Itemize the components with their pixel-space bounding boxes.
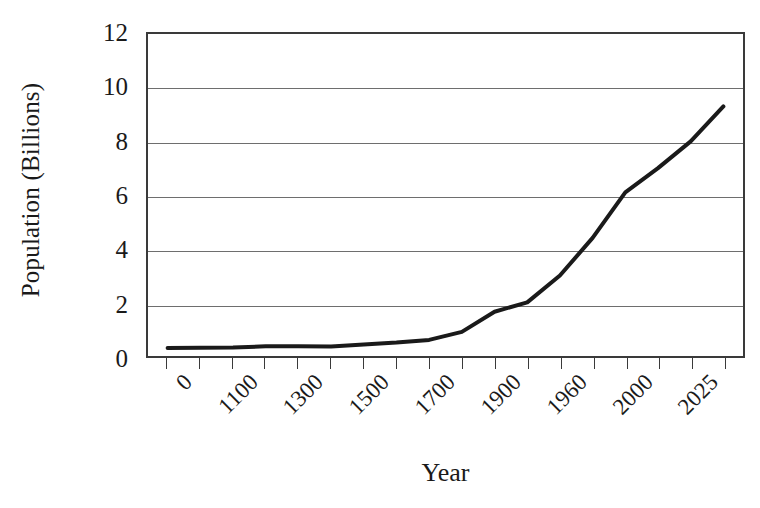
x-tick (725, 358, 726, 369)
x-tick (692, 358, 693, 369)
chart-page: Population (Billions) 024681012 01100130… (0, 0, 760, 508)
x-tick (264, 358, 265, 369)
x-tick (528, 358, 529, 369)
x-tick (199, 358, 200, 369)
x-tick (297, 358, 298, 369)
x-tick (561, 358, 562, 369)
x-tick (594, 358, 595, 369)
y-tick-label: 0 (116, 346, 129, 371)
y-axis-title: Population (Billions) (0, 0, 62, 380)
x-tick-label: 2000 (608, 370, 657, 419)
x-axis-ticks (146, 358, 745, 370)
x-tick-label: 2025 (674, 370, 723, 419)
plot-area (146, 32, 745, 358)
x-tick (495, 358, 496, 369)
y-axis-title-text: Population (Billions) (17, 83, 45, 298)
y-tick-label: 6 (116, 183, 129, 208)
x-tick (166, 358, 167, 369)
y-tick-label: 12 (103, 20, 128, 45)
y-tick-label: 2 (116, 291, 129, 316)
x-tick-label: 0 (172, 370, 196, 394)
x-tick (659, 358, 660, 369)
x-tick (627, 358, 628, 369)
y-tick-label: 4 (116, 237, 129, 262)
y-tick-label: 8 (116, 128, 129, 153)
y-axis-tick-labels: 024681012 (62, 0, 140, 380)
x-tick-label: 1100 (214, 370, 262, 418)
x-tick-label: 1300 (279, 370, 328, 419)
data-series-line (148, 34, 743, 356)
x-tick (363, 358, 364, 369)
x-tick (232, 358, 233, 369)
x-tick-label: 1960 (542, 370, 591, 419)
y-tick-label: 10 (103, 74, 128, 99)
x-tick (429, 358, 430, 369)
x-tick (396, 358, 397, 369)
x-axis-title: Year (146, 458, 745, 488)
x-axis-tick-labels: 011001300150017001900196020002025 (146, 370, 745, 450)
x-tick-label: 1500 (345, 370, 394, 419)
x-tick (330, 358, 331, 369)
x-tick-label: 1900 (476, 370, 525, 419)
x-tick-label: 1700 (411, 370, 460, 419)
x-tick (462, 358, 463, 369)
